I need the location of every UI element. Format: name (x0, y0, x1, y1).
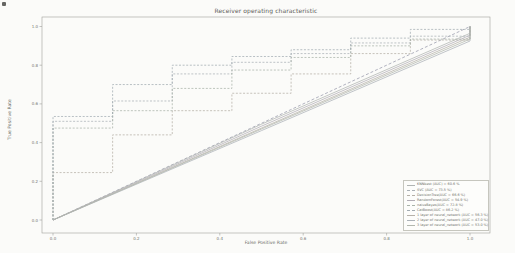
legend-line-sample-icon (407, 195, 415, 196)
legend-label: 3 layer of neural_network (AUC = 53.0 %) (417, 224, 488, 227)
legend-label: naiveBayes(AUC = 72.8 %) (417, 204, 463, 207)
y-tick-label: 0.2 (32, 179, 39, 184)
legend-label: RandomForest(AUC = 54.9 %) (417, 199, 468, 202)
legend-line-sample-icon (407, 220, 415, 221)
legend-item-nn-3-layer: 3 layer of neural_network (AUC = 53.0 %) (407, 224, 486, 228)
chart-title: Receiver operating characteristic (42, 7, 490, 14)
legend-line-sample-icon (407, 205, 415, 206)
legend-item-DecisionTree: DecisionTree(AUC = 66.6 %) (407, 193, 486, 197)
legend-item-KNNbest: KNNbest (AUC) = 60.6 % (407, 183, 486, 187)
legend-item-RandomForest: RandomForest(AUC = 54.9 %) (407, 198, 486, 202)
y-tick-label: 1.0 (32, 24, 39, 29)
legend-line-sample-icon (407, 210, 415, 211)
y-tick-label: 0.4 (32, 140, 39, 145)
legend-label: 1 layer of neural_network (AUC = 56.3 %) (417, 214, 488, 217)
y-tick-label: 0.6 (32, 101, 39, 106)
legend-item-SVC: SVC (AUC = 73.5 %) (407, 188, 486, 192)
legend-label: 2 layer of neural_network (AUC = 47.0 %) (417, 219, 488, 222)
legend-label: KNNbest (AUC) = 60.6 % (417, 183, 459, 186)
legend-label: DecisionTree(AUC = 66.6 %) (417, 194, 465, 197)
legend-label: CatBoost(AUC = 86.2 %) (417, 209, 459, 212)
legend: KNNbest (AUC) = 60.6 %SVC (AUC = 73.5 %)… (403, 180, 489, 231)
y-axis-label: True Positive Rate (7, 90, 12, 150)
legend-line-sample-icon (407, 190, 415, 191)
x-axis-label: False Positive Rate (42, 240, 490, 245)
legend-line-sample-icon (407, 185, 415, 186)
legend-line-sample-icon (407, 225, 415, 226)
legend-line-sample-icon (407, 215, 415, 216)
legend-label: SVC (AUC = 73.5 %) (417, 189, 452, 192)
y-tick-label: 0.8 (32, 63, 39, 68)
roc-figure: 0.00.20.40.60.81.00.00.20.40.60.81.0 Rec… (0, 0, 515, 253)
legend-item-naiveBayes: naiveBayes(AUC = 72.8 %) (407, 203, 486, 207)
legend-line-sample-icon (407, 200, 415, 201)
y-tick-label: 0.0 (32, 218, 39, 223)
